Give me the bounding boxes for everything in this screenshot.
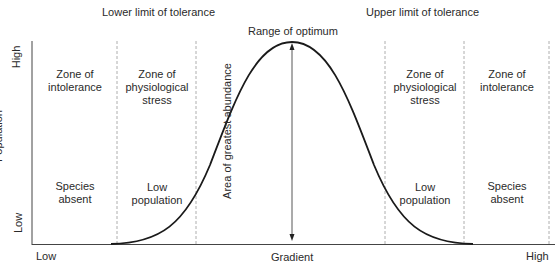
zone-title-line: physiological xyxy=(386,81,464,94)
y-axis-title: Population xyxy=(0,110,4,162)
zone-title-line: stress xyxy=(118,94,196,107)
zone-title-line: Zone of xyxy=(474,68,540,81)
zone-title-line: Zone of xyxy=(44,68,106,81)
zone-title-line: stress xyxy=(386,94,464,107)
arrow-head-up-icon xyxy=(290,43,295,50)
right-stress-desc: Low population xyxy=(386,181,464,207)
arrow-head-down-icon xyxy=(290,234,295,241)
zone-desc-line: population xyxy=(118,194,196,207)
zone-desc-line: absent xyxy=(474,193,540,206)
zone-title-line: physiological xyxy=(118,81,196,94)
x-axis-title: Gradient xyxy=(271,251,313,264)
left-intolerance-title: Zone of intolerance xyxy=(44,68,106,94)
right-stress-title: Zone of physiological stress xyxy=(386,68,464,107)
zone-desc-line: Species xyxy=(474,180,540,193)
upper-limit-label: Upper limit of tolerance xyxy=(366,6,479,19)
right-intolerance-title: Zone of intolerance xyxy=(474,68,540,94)
y-high-label: High xyxy=(10,46,22,69)
x-high-label: High xyxy=(526,250,549,263)
abundance-label: Area of greatest abundance xyxy=(221,63,233,199)
tolerance-diagram xyxy=(0,0,557,273)
left-intolerance-desc: Species absent xyxy=(44,180,106,206)
zone-desc-line: Species xyxy=(44,180,106,193)
zone-title-line: Zone of xyxy=(386,68,464,81)
zone-desc-line: population xyxy=(386,194,464,207)
y-low-label: Low xyxy=(12,213,24,233)
zone-title-line: intolerance xyxy=(474,81,540,94)
zone-desc-line: absent xyxy=(44,193,106,206)
zone-desc-line: Low xyxy=(118,181,196,194)
lower-limit-label: Lower limit of tolerance xyxy=(102,6,215,19)
left-stress-desc: Low population xyxy=(118,181,196,207)
x-low-label: Low xyxy=(36,250,56,263)
optimum-label: Range of optimum xyxy=(248,25,338,38)
zone-desc-line: Low xyxy=(386,181,464,194)
left-stress-title: Zone of physiological stress xyxy=(118,68,196,107)
zone-title-line: Zone of xyxy=(118,68,196,81)
zone-title-line: intolerance xyxy=(44,81,106,94)
right-intolerance-desc: Species absent xyxy=(474,180,540,206)
